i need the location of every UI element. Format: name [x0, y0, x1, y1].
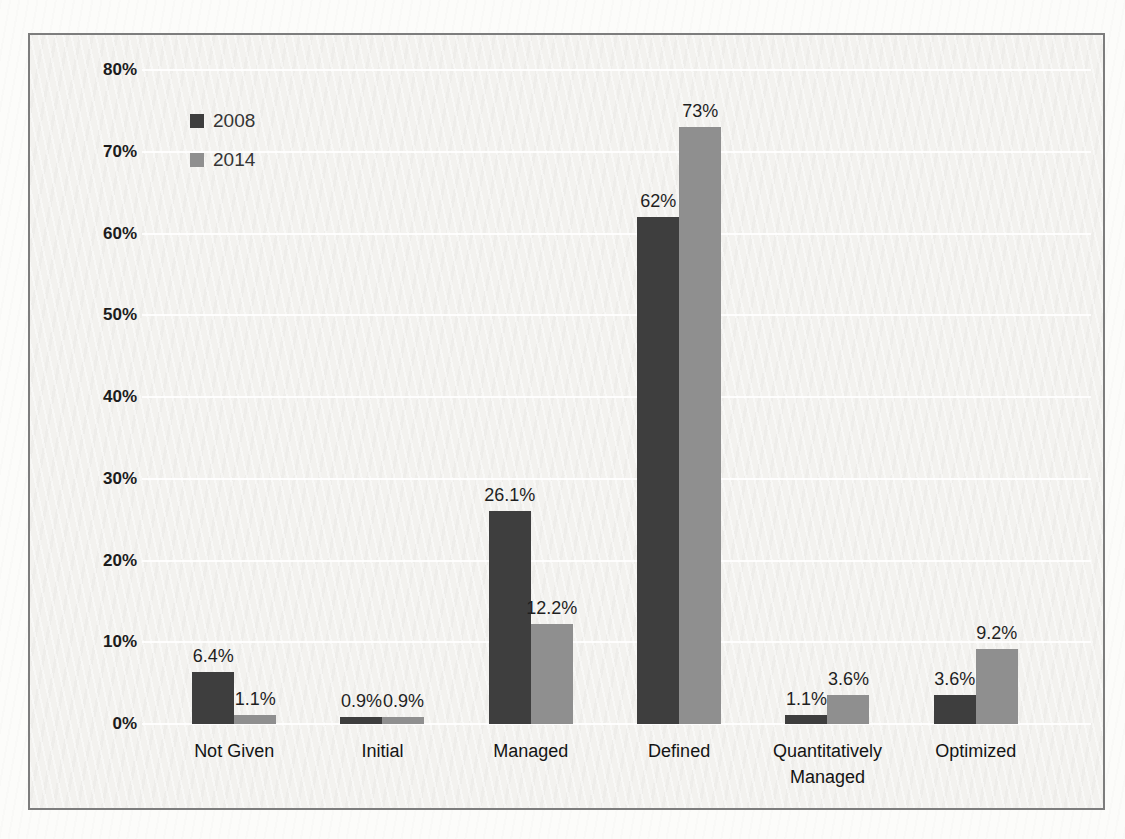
bar-column-2014: 1.1% — [234, 715, 276, 724]
value-label-2014: 1.1% — [235, 690, 276, 708]
value-label-2014: 0.9% — [383, 692, 424, 710]
legend-label-2014: 2014 — [213, 150, 255, 169]
bar-column-2008: 26.1% — [489, 511, 531, 724]
bar-2008 — [192, 672, 234, 724]
bar-pair: 3.6%9.2% — [934, 649, 1018, 724]
bar-column-2008: 0.9% — [340, 717, 382, 724]
bar-group: 0.9%0.9%Initial — [308, 70, 456, 724]
bar-2014 — [382, 717, 424, 724]
legend-item-2014: 2014 — [190, 150, 255, 169]
value-label-2008: 3.6% — [934, 670, 975, 688]
y-tick-label: 10% — [103, 632, 137, 652]
legend-swatch-2008-icon — [190, 114, 204, 128]
bar-2014 — [827, 695, 869, 724]
category-label: Managed — [451, 738, 611, 764]
y-tick-label: 30% — [103, 469, 137, 489]
bar-column-2014: 0.9% — [382, 717, 424, 724]
category-label: Optimized — [896, 738, 1056, 764]
legend-label-2008: 2008 — [213, 111, 255, 130]
bar-group: 26.1%12.2%Managed — [457, 70, 605, 724]
bar-group: 3.6%9.2%Optimized — [902, 70, 1050, 724]
value-label-2014: 73% — [682, 102, 718, 120]
legend-swatch-2014-icon — [190, 153, 204, 167]
value-label-2008: 1.1% — [786, 690, 827, 708]
bar-2014 — [531, 624, 573, 724]
y-tick-label: 0% — [112, 714, 137, 734]
bar-pair: 0.9%0.9% — [340, 717, 424, 724]
bar-pair: 62%73% — [637, 127, 721, 724]
bar-column-2008: 6.4% — [192, 672, 234, 724]
bar-2014 — [234, 715, 276, 724]
chart-frame: 0%10%20%30%40%50%60%70%80% 6.4%1.1%Not G… — [28, 33, 1105, 810]
value-label-2014: 12.2% — [526, 599, 577, 617]
y-tick-label: 20% — [103, 551, 137, 571]
bar-column-2014: 73% — [679, 127, 721, 724]
value-label-2008: 6.4% — [193, 647, 234, 665]
bar-pair: 26.1%12.2% — [489, 511, 573, 724]
bar-2008 — [489, 511, 531, 724]
bar-2008 — [637, 217, 679, 724]
bar-column-2008: 1.1% — [785, 715, 827, 724]
bar-2014 — [679, 127, 721, 724]
bar-pair: 1.1%3.6% — [785, 695, 869, 724]
bar-column-2008: 62% — [637, 217, 679, 724]
bar-2008 — [785, 715, 827, 724]
bar-2008 — [340, 717, 382, 724]
bar-group: 62%73%Defined — [605, 70, 753, 724]
y-tick-label: 60% — [103, 224, 137, 244]
bar-column-2008: 3.6% — [934, 695, 976, 724]
value-label-2014: 9.2% — [976, 624, 1017, 642]
bar-pair: 6.4%1.1% — [192, 672, 276, 724]
bar-groups: 6.4%1.1%Not Given0.9%0.9%Initial26.1%12.… — [160, 70, 1050, 724]
bar-column-2014: 3.6% — [827, 695, 869, 724]
y-tick-label: 40% — [103, 387, 137, 407]
category-label: Initial — [302, 738, 462, 764]
y-axis: 0%10%20%30%40%50%60%70%80% — [38, 70, 137, 724]
category-label: Not Given — [154, 738, 314, 764]
bar-column-2014: 9.2% — [976, 649, 1018, 724]
legend: 2008 2014 — [190, 111, 255, 189]
value-label-2014: 3.6% — [828, 670, 869, 688]
bar-2008 — [934, 695, 976, 724]
y-tick-label: 50% — [103, 305, 137, 325]
y-tick-label: 80% — [103, 60, 137, 80]
value-label-2008: 26.1% — [484, 486, 535, 504]
bar-group: 1.1%3.6%Quantitatively Managed — [753, 70, 901, 724]
category-label: Defined — [599, 738, 759, 764]
value-label-2008: 62% — [640, 192, 676, 210]
y-tick-label: 70% — [103, 142, 137, 162]
category-label: Quantitatively Managed — [747, 738, 907, 790]
value-label-2008: 0.9% — [341, 692, 382, 710]
legend-item-2008: 2008 — [190, 111, 255, 130]
bar-column-2014: 12.2% — [531, 624, 573, 724]
bar-2014 — [976, 649, 1018, 724]
